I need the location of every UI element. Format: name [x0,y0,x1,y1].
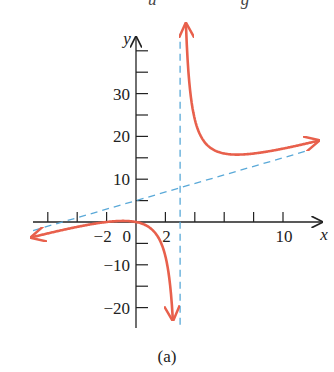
y-tick-label: 30 [113,85,130,104]
x-tick-label: 2 [162,227,171,246]
origin-label: 0 [123,227,132,246]
y-tick-label: 10 [113,170,130,189]
x-axis-label: x [319,225,328,244]
x-tick-label: 10 [276,227,293,246]
tick-labels: −2210302010−10−200xy [94,29,329,318]
y-tick-label: 20 [113,127,130,146]
y-tick-label: −10 [103,256,130,275]
tick-marks [48,51,283,308]
function-graph: −2210302010−10−200xy [0,0,334,372]
y-tick-label: −20 [103,299,130,318]
asymptotes [33,34,309,325]
x-tick-label: −2 [94,227,112,246]
axes [33,37,322,328]
y-axis-label: y [121,29,131,48]
curves [33,26,317,319]
curve-right-branch [186,26,317,155]
figure-caption: (a) [0,347,334,367]
slant-asymptote [33,150,309,230]
